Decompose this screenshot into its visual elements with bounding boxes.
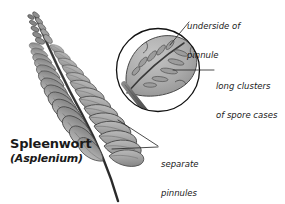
frond-tip xyxy=(27,11,54,46)
fern-frond xyxy=(27,11,145,201)
species-binomial-name: (Asplenium) xyxy=(10,152,83,165)
annotation-line-2: pinnules xyxy=(161,189,199,199)
annotation-long-clusters-of-spore-cases: long clusters of spore cases xyxy=(216,63,277,139)
botanical-figure: Spleenwort (Asplenium) underside of pinn… xyxy=(0,0,285,204)
annotation-line-2: pinnule xyxy=(187,51,240,61)
annotation-separate-pinnules: separate pinnules xyxy=(161,141,199,204)
annotation-line-1: underside of xyxy=(187,22,240,32)
annotation-line-1: long clusters xyxy=(216,82,277,92)
species-common-name: Spleenwort xyxy=(10,136,92,151)
annotation-line-1: separate xyxy=(161,160,199,170)
annotation-line-2: of spore cases xyxy=(216,111,277,121)
